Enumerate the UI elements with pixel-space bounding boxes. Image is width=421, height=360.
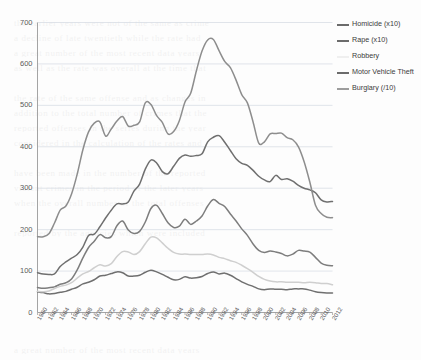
- chart-legend: Homicide (x10) Rape (x10) Robbery Motor …: [337, 20, 421, 100]
- axis-lines: [38, 23, 333, 313]
- legend-label-motor-vehicle-theft: Motor Vehicle Theft: [352, 68, 414, 77]
- series-line-motor-vehicle-theft: [38, 38, 333, 237]
- legend-swatch-robbery-icon: [337, 56, 349, 58]
- y-axis-tick-label: 200: [7, 226, 33, 234]
- y-axis-tick-label: 500: [7, 101, 33, 109]
- series-line-burglary-10: [38, 237, 333, 292]
- legend-swatch-motor-vehicle-theft-icon: [337, 72, 349, 74]
- legend-item-robbery[interactable]: Robbery: [337, 52, 421, 62]
- gridlines: [38, 23, 333, 272]
- line-chart: 0100200300400500600700 19601962196419661…: [0, 0, 421, 360]
- legend-swatch-homicide-icon: [337, 24, 349, 26]
- y-axis-tick-label: 100: [7, 267, 33, 275]
- legend-label-homicide: Homicide (x10): [352, 20, 400, 29]
- chart-page: the earlier years were not of the same a…: [0, 0, 421, 360]
- legend-swatch-burglary-icon: [337, 88, 349, 90]
- y-axis-tick-label: 400: [7, 143, 33, 151]
- legend-item-burglary[interactable]: Burglary (/10): [337, 84, 421, 94]
- legend-item-motor-vehicle-theft[interactable]: Motor Vehicle Theft: [337, 68, 421, 78]
- series-lines: [38, 38, 333, 294]
- legend-swatch-rape-icon: [337, 40, 349, 42]
- y-axis-tick-label: 0: [7, 309, 33, 317]
- legend-label-burglary: Burglary (/10): [352, 84, 396, 93]
- legend-item-homicide[interactable]: Homicide (x10): [337, 20, 421, 30]
- legend-label-robbery: Robbery: [352, 52, 379, 61]
- y-axis-tick-label: 700: [7, 19, 33, 27]
- legend-label-rape: Rape (x10): [352, 36, 388, 45]
- y-axis-tick-label: 600: [7, 60, 33, 68]
- y-axis-tick-label: 300: [7, 184, 33, 192]
- legend-item-rape[interactable]: Rape (x10): [337, 36, 421, 46]
